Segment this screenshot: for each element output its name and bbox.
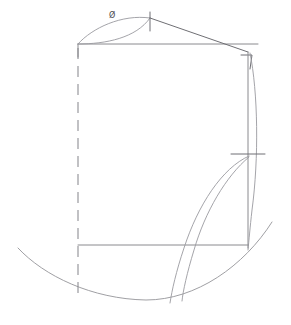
drawing-canvas: Ø xyxy=(0,0,291,325)
dart-curve-inner-path xyxy=(182,157,249,301)
hem-arc-path xyxy=(18,222,272,300)
right-side-seam-curve-path xyxy=(248,53,257,250)
diameter-angle-symbol: Ø xyxy=(109,12,115,20)
dart-curve-outer-path xyxy=(170,156,249,303)
shoulder-slope-line-path xyxy=(150,18,248,52)
pattern-drawing xyxy=(0,0,291,325)
